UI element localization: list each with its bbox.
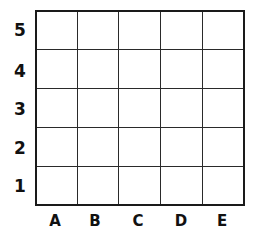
column-label-d: D — [171, 212, 191, 230]
grid-line-vertical — [202, 12, 203, 204]
row-label-1: 1 — [12, 177, 28, 195]
grid-line-vertical — [160, 12, 161, 204]
grid-line-horizontal — [37, 166, 243, 167]
row-label-3: 3 — [12, 100, 28, 118]
row-label-2: 2 — [12, 139, 28, 157]
column-label-a: A — [45, 212, 65, 230]
grid-line-horizontal — [37, 49, 243, 50]
coordinate-grid — [35, 10, 245, 206]
grid-line-horizontal — [37, 88, 243, 89]
grid-line-vertical — [118, 12, 119, 204]
grid-line-horizontal — [37, 127, 243, 128]
grid-line-vertical — [77, 12, 78, 204]
row-label-4: 4 — [12, 62, 28, 80]
column-label-b: B — [85, 212, 105, 230]
column-label-c: C — [128, 212, 148, 230]
row-label-5: 5 — [12, 21, 28, 39]
column-label-e: E — [212, 212, 232, 230]
